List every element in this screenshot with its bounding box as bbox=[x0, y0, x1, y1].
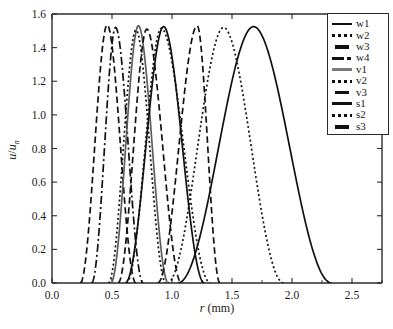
data-curves bbox=[80, 25, 331, 283]
legend-swatch-w3 bbox=[332, 41, 352, 51]
curve-w1 bbox=[178, 27, 332, 283]
y-tick-label: 0.4 bbox=[32, 210, 47, 222]
legend-label-w1: w1 bbox=[356, 18, 369, 29]
legend-label-s2: s2 bbox=[356, 109, 366, 120]
x-tick-label: 1.5 bbox=[225, 289, 240, 301]
legend-item-v2[interactable]: v2 bbox=[332, 75, 385, 86]
svg-text:u/un: u/un bbox=[5, 140, 21, 159]
curve-s3 bbox=[158, 26, 220, 283]
legend-label-s1: s1 bbox=[356, 98, 366, 109]
legend-swatch-w4 bbox=[332, 53, 352, 63]
x-tick-label: 0.0 bbox=[45, 289, 60, 301]
y-axis-title: u/un bbox=[5, 140, 21, 159]
y-tick-label: 0.6 bbox=[32, 176, 47, 188]
legend-item-s3[interactable]: s3 bbox=[332, 121, 385, 132]
curve-w2 bbox=[167, 27, 283, 283]
curve-v2 bbox=[108, 30, 166, 283]
legend-swatch-s1 bbox=[332, 98, 352, 108]
legend-label-v3: v3 bbox=[356, 87, 367, 98]
legend-swatch-s2 bbox=[332, 110, 352, 120]
legend-label-s3: s3 bbox=[356, 121, 366, 132]
x-axis-tick-labels: 0.00.51.01.52.02.5 bbox=[45, 289, 360, 301]
legend-swatch-v3 bbox=[332, 87, 352, 97]
legend-swatch-w1 bbox=[332, 19, 352, 29]
y-axis-tick-labels: 0.00.20.40.60.81.01.21.41.6 bbox=[32, 8, 47, 289]
legend-swatch-v1 bbox=[332, 64, 352, 74]
legend-item-s2[interactable]: s2 bbox=[332, 109, 385, 120]
x-tick-label: 2.5 bbox=[345, 289, 360, 301]
y-tick-label: 1.0 bbox=[32, 109, 47, 121]
legend-swatch-s3 bbox=[332, 121, 352, 131]
legend-item-w1[interactable]: w1 bbox=[332, 18, 385, 29]
legend-box: w1w2w3w4v1v2v3s1s2s3 bbox=[327, 13, 389, 135]
y-tick-label: 0.2 bbox=[32, 243, 47, 255]
legend-swatch-w2 bbox=[332, 30, 352, 40]
legend-label-w3: w3 bbox=[356, 41, 369, 52]
figure-canvas: 0.00.51.01.52.02.5 0.00.20.40.60.81.01.2… bbox=[0, 0, 393, 329]
legend-label-v1: v1 bbox=[356, 64, 367, 75]
curve-w3 bbox=[80, 25, 136, 283]
y-tick-label: 1.4 bbox=[32, 42, 47, 54]
legend-item-w4[interactable]: w4 bbox=[332, 52, 385, 63]
legend-label-w4: w4 bbox=[356, 52, 369, 63]
curve-v1 bbox=[111, 26, 169, 283]
y-tick-label: 1.6 bbox=[32, 8, 47, 20]
x-tick-label: 0.5 bbox=[105, 289, 120, 301]
curve-s1 bbox=[125, 27, 204, 283]
y-tick-label: 1.2 bbox=[32, 75, 47, 87]
y-tick-label: 0.0 bbox=[32, 277, 47, 289]
x-tick-label: 1.0 bbox=[165, 289, 180, 301]
x-tick-label: 2.0 bbox=[285, 289, 300, 301]
x-axis-title: r (mm) bbox=[200, 301, 234, 315]
legend-label-w2: w2 bbox=[356, 30, 369, 41]
legend-label-v2: v2 bbox=[356, 75, 367, 86]
y-tick-label: 0.8 bbox=[32, 143, 47, 155]
legend-swatch-v2 bbox=[332, 76, 352, 86]
